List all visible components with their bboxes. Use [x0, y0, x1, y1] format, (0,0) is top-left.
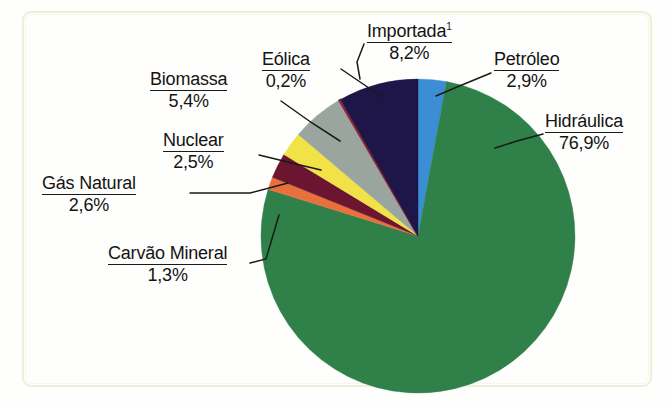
- slice-label-petroleo: Petróleo 2,9%: [494, 50, 559, 90]
- slice-label-petroleo-value: 2,9%: [494, 71, 559, 91]
- slice-label-carvao-mineral-name: Carvão Mineral: [108, 244, 227, 265]
- slice-label-eolica-value: 0,2%: [262, 71, 310, 91]
- slice-label-carvao-mineral-value: 1,3%: [108, 265, 227, 285]
- slice-label-importada-name: Importada1: [367, 22, 452, 43]
- pie-chart: Biomassa 5,4% Eólica 0,2% Importada1 8,2…: [0, 0, 668, 404]
- leader-line-nuclear: [259, 155, 321, 170]
- slice-label-gas-natural-name: Gás Natural: [42, 174, 136, 195]
- slice-label-hidraulica: Hidráulica 76,9%: [545, 112, 623, 152]
- leader-line-carvao: [250, 215, 279, 263]
- leader-line-petroleo: [436, 73, 491, 96]
- leader-line-eolica: [341, 69, 383, 98]
- slice-label-nuclear-value: 2,5%: [163, 152, 224, 172]
- slice-label-petroleo-name: Petróleo: [494, 50, 559, 71]
- leader-line-biomassa: [281, 101, 340, 141]
- slice-label-biomassa: Biomassa 5,4%: [150, 70, 227, 110]
- slice-label-eolica-name: Eólica: [262, 50, 310, 71]
- leader-line-importada: [357, 44, 364, 79]
- slice-label-hidraulica-value: 76,9%: [545, 133, 623, 153]
- slice-label-carvao-mineral: Carvão Mineral 1,3%: [108, 244, 227, 284]
- slice-label-nuclear: Nuclear 2,5%: [163, 131, 224, 171]
- slice-label-biomassa-name: Biomassa: [150, 70, 227, 91]
- leader-line-hidraulica: [495, 134, 543, 148]
- footnote-marker: 1: [446, 21, 451, 32]
- slice-label-gas-natural-value: 2,6%: [42, 195, 136, 215]
- slice-label-gas-natural: Gás Natural 2,6%: [42, 174, 136, 214]
- slice-label-hidraulica-name: Hidráulica: [545, 112, 623, 133]
- slice-label-importada: Importada1 8,2%: [367, 22, 452, 62]
- slice-label-importada-text: Importada: [367, 21, 446, 41]
- slice-label-biomassa-value: 5,4%: [150, 91, 227, 111]
- chart-page: Biomassa 5,4% Eólica 0,2% Importada1 8,2…: [0, 0, 668, 404]
- slice-label-nuclear-name: Nuclear: [163, 131, 224, 152]
- slice-label-eolica: Eólica 0,2%: [262, 50, 310, 90]
- slice-label-importada-value: 8,2%: [367, 43, 452, 63]
- leader-line-gas: [190, 183, 288, 193]
